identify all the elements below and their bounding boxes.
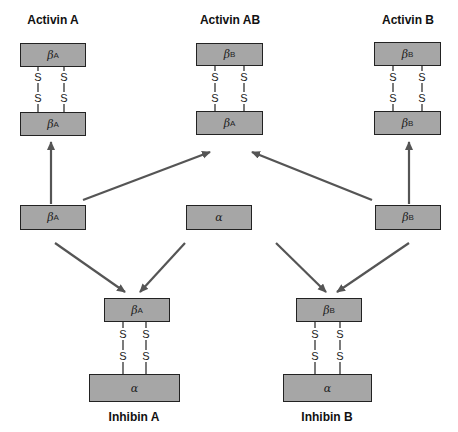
sulfur-label: S — [34, 92, 41, 104]
beta-a-subunit: βA — [196, 111, 263, 135]
sulfur-label: S — [119, 350, 126, 362]
sulfur-label: S — [60, 92, 67, 104]
sulfur-label: S — [311, 328, 318, 340]
sulfur-label: S — [142, 350, 149, 362]
alpha-subunit: α — [283, 374, 372, 402]
sulfur-label: S — [142, 328, 149, 340]
beta-a-subunit: βA — [20, 112, 86, 136]
alpha-symbol: α — [131, 382, 138, 395]
beta-b-subunit: βB — [296, 298, 362, 322]
sulfur-label: S — [240, 92, 247, 104]
alpha-symbol: α — [215, 211, 222, 224]
sulfur-label: S — [336, 350, 343, 362]
alpha-subunit: α — [89, 374, 180, 402]
sulfur-label: S — [211, 71, 218, 83]
beta-a-subunit: βA — [104, 298, 170, 322]
sulfur-label: S — [336, 328, 343, 340]
sulfur-label: S — [311, 350, 318, 362]
subscript: A — [54, 120, 59, 129]
subscript: B — [408, 50, 413, 59]
subscript: B — [409, 213, 414, 222]
sulfur-label: S — [389, 71, 396, 83]
beta-b-subunit: βB — [374, 111, 441, 135]
beta-a-subunit: βA — [20, 43, 86, 67]
beta-b-monomer: βB — [375, 205, 441, 230]
subscript: B — [330, 306, 335, 315]
subscript: B — [230, 50, 235, 59]
label-inhibin-b: Inhibin B — [301, 410, 352, 424]
beta-b-subunit: βB — [374, 42, 441, 66]
sulfur-label: S — [34, 71, 41, 83]
subscript: A — [54, 51, 59, 60]
sulfur-label: S — [211, 92, 218, 104]
sulfur-label: S — [418, 92, 425, 104]
subscript: A — [138, 306, 143, 315]
beta-a-monomer: βA — [20, 205, 86, 230]
sulfur-label: S — [240, 71, 247, 83]
label-activin-ab: Activin AB — [200, 13, 260, 27]
alpha-monomer: α — [186, 205, 252, 230]
subscript: A — [54, 213, 59, 222]
subscript: B — [408, 119, 413, 128]
subscript: A — [230, 119, 235, 128]
label-activin-a: Activin A — [27, 13, 79, 27]
sulfur-label: S — [60, 71, 67, 83]
sulfur-label: S — [389, 92, 396, 104]
sulfur-label: S — [418, 71, 425, 83]
alpha-symbol: α — [324, 382, 331, 395]
label-activin-b: Activin B — [382, 13, 434, 27]
sulfur-label: S — [119, 328, 126, 340]
label-inhibin-a: Inhibin A — [109, 410, 160, 424]
beta-b-subunit: βB — [196, 43, 263, 66]
